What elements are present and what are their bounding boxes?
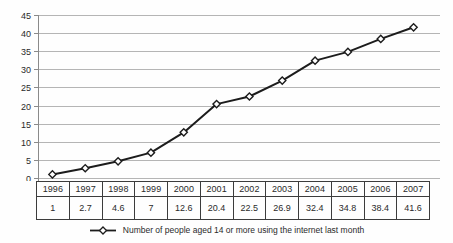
year-cell: 1999 [135,182,168,197]
data-point-marker [410,24,417,31]
data-point-marker [114,158,121,165]
value-cell: 7 [135,197,168,220]
value-cell: 26.9 [266,197,299,220]
data-point-marker [246,93,253,100]
internet-usage-chart-figure: 051015202530354045 199619971998199920002… [0,0,453,243]
data-point-marker [82,165,89,172]
series-line [52,27,413,174]
value-cell: 34.8 [331,197,364,220]
year-cell: 2001 [200,182,233,197]
year-cell: 2005 [331,182,364,197]
y-axis-label: 25 [21,83,31,93]
y-axis-label: 45 [21,11,31,21]
year-cell: 2002 [233,182,266,197]
line-chart-plot-area: 051015202530354045 [0,0,453,181]
y-axis-label: 0 [26,174,31,182]
value-cell: 41.6 [397,197,430,220]
y-axis-label: 30 [21,65,31,75]
table-value-row: 12.74.6712.620.422.526.932.434.838.441.6 [37,197,430,220]
table-year-row: 1996199719981999200020012002200320042005… [37,182,430,197]
year-cell: 2006 [364,182,397,197]
year-cell: 1997 [69,182,102,197]
value-cell: 38.4 [364,197,397,220]
legend: Number of people aged 14 or more using t… [0,225,453,235]
value-cell: 1 [37,197,70,220]
year-cell: 2000 [168,182,201,197]
value-cell: 32.4 [299,197,332,220]
legend-label: Number of people aged 14 or more using t… [123,225,364,235]
value-cell: 2.7 [69,197,102,220]
y-axis-label: 15 [21,120,31,130]
data-point-marker [344,48,351,55]
year-cell: 1998 [102,182,135,197]
value-cell: 12.6 [168,197,201,220]
value-cell: 4.6 [102,197,135,220]
year-cell: 2003 [266,182,299,197]
data-point-marker [377,35,384,42]
value-cell: 22.5 [233,197,266,220]
y-axis-label: 40 [21,29,31,39]
data-point-marker [49,171,56,178]
y-axis-label: 10 [21,138,31,148]
value-cell: 20.4 [200,197,233,220]
year-cell: 2004 [299,182,332,197]
y-axis-label: 20 [21,102,31,112]
data-table-container: 1996199719981999200020012002200320042005… [36,181,430,220]
legend-line-diamond-icon [89,226,117,235]
y-axis-label: 5 [26,156,31,166]
year-cell: 2007 [397,182,430,197]
data-table: 1996199719981999200020012002200320042005… [36,181,430,220]
year-cell: 1996 [37,182,70,197]
y-axis-label: 35 [21,47,31,57]
